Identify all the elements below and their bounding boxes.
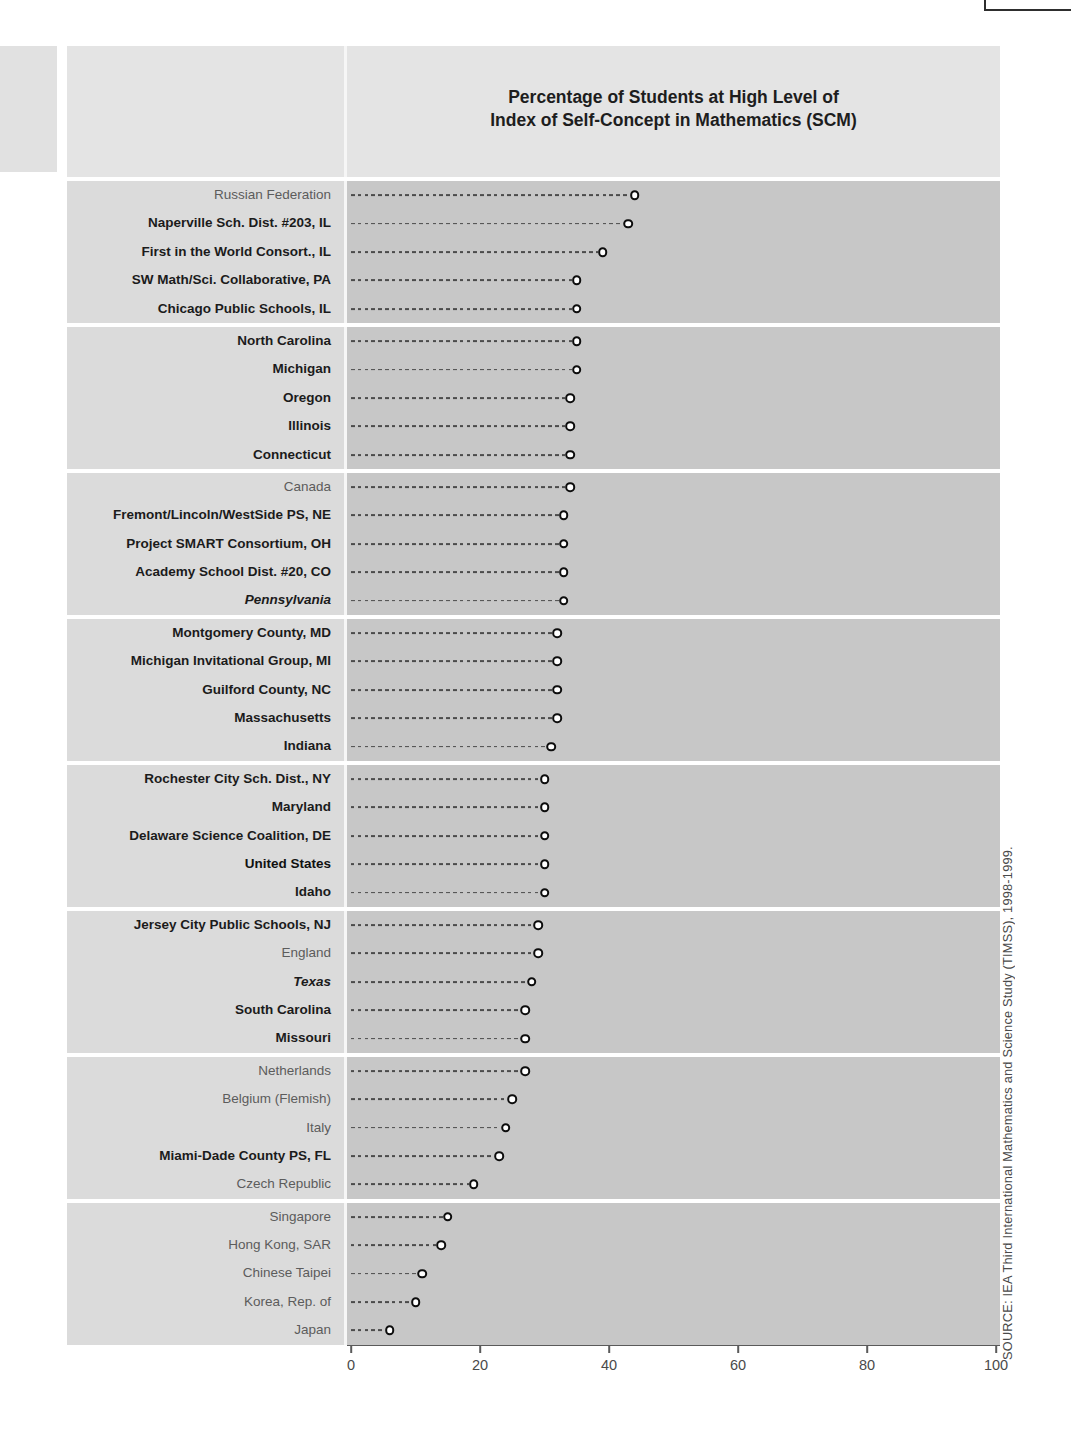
data-point-marker <box>572 365 582 375</box>
row-label: Miami-Dade County PS, FL <box>67 1142 344 1170</box>
row-plot <box>347 765 1000 793</box>
row-label: Chicago Public Schools, IL <box>67 295 344 323</box>
axis-tick <box>479 1346 481 1353</box>
row-plot <box>347 878 1000 906</box>
group-label-column: Rochester City Sch. Dist., NYMarylandDel… <box>67 765 344 907</box>
row-plot <box>347 822 1000 850</box>
title-band-left <box>67 46 344 177</box>
row-label: Michigan <box>67 355 344 383</box>
group-plot-column <box>347 765 1000 907</box>
row-label: Pennsylvania <box>67 586 344 614</box>
row-label: Maryland <box>67 793 344 821</box>
data-point-marker <box>520 1034 530 1044</box>
data-point-marker <box>540 859 550 869</box>
row-label: United States <box>67 850 344 878</box>
row-plot <box>347 266 1000 294</box>
data-point-marker <box>546 742 556 752</box>
leader-dash-line <box>351 1098 507 1100</box>
row-plot <box>347 209 1000 237</box>
decorative-block <box>0 46 57 172</box>
data-point-marker <box>559 539 569 549</box>
group-label-column: Jersey City Public Schools, NJEnglandTex… <box>67 911 344 1053</box>
group-label-column: SingaporeHong Kong, SARChinese TaipeiKor… <box>67 1203 344 1345</box>
leader-dash-line <box>351 778 540 780</box>
row-plot <box>347 1057 1000 1085</box>
group-plot-column <box>347 1057 1000 1199</box>
row-label: Hong Kong, SAR <box>67 1231 344 1259</box>
leader-dash-line <box>351 340 572 342</box>
leader-dash-line <box>351 223 623 225</box>
row-plot <box>347 1259 1000 1287</box>
chart-groups: Russian FederationNaperville Sch. Dist. … <box>67 181 1000 1345</box>
data-point-marker <box>553 713 563 723</box>
axis-tick <box>350 1346 352 1353</box>
data-point-marker <box>553 657 563 667</box>
leader-dash-line <box>351 1244 436 1246</box>
data-point-marker <box>411 1297 421 1307</box>
scm-dot-plot-chart: Percentage of Students at High Level of … <box>67 46 1000 1386</box>
page-corner-box <box>984 0 1071 11</box>
leader-dash-line <box>351 1184 469 1186</box>
row-label: Oregon <box>67 384 344 412</box>
row-label: Chinese Taipei <box>67 1259 344 1287</box>
row-label: Belgium (Flemish) <box>67 1085 344 1113</box>
data-point-marker <box>540 803 550 813</box>
group-label-column: Montgomery County, MDMichigan Invitation… <box>67 619 344 761</box>
row-plot <box>347 1316 1000 1344</box>
row-plot <box>347 676 1000 704</box>
row-label: Michigan Invitational Group, MI <box>67 647 344 675</box>
leader-dash-line <box>351 952 533 954</box>
row-label: Academy School Dist. #20, CO <box>67 558 344 586</box>
row-label: Italy <box>67 1114 344 1142</box>
x-axis-row: 020406080100 <box>67 1345 1000 1386</box>
leader-dash-line <box>351 1301 411 1303</box>
leader-dash-line <box>351 717 552 719</box>
data-point-marker <box>501 1123 511 1133</box>
data-point-marker <box>553 628 563 638</box>
chart-title-band: Percentage of Students at High Level of … <box>67 46 1000 177</box>
data-point-marker <box>385 1326 395 1336</box>
row-label: Delaware Science Coalition, DE <box>67 822 344 850</box>
leader-dash-line <box>351 369 572 371</box>
axis-tick-label: 20 <box>472 1357 488 1373</box>
axis-tick-label: 40 <box>601 1357 617 1373</box>
row-plot <box>347 1114 1000 1142</box>
row-plot <box>347 586 1000 614</box>
leader-dash-line <box>351 1330 385 1332</box>
chart-group: SingaporeHong Kong, SARChinese TaipeiKor… <box>67 1203 1000 1345</box>
row-plot <box>347 1231 1000 1259</box>
data-point-marker <box>572 276 582 286</box>
group-plot-column <box>347 911 1000 1053</box>
data-point-marker <box>443 1212 453 1222</box>
row-label: Guilford County, NC <box>67 676 344 704</box>
data-point-marker <box>559 511 569 521</box>
data-point-marker <box>598 247 608 257</box>
row-plot <box>347 732 1000 760</box>
chart-title-line-1: Percentage of Students at High Level of <box>347 86 1000 109</box>
row-label: Naperville Sch. Dist. #203, IL <box>67 209 344 237</box>
row-label: First in the World Consort., IL <box>67 238 344 266</box>
row-plot <box>347 704 1000 732</box>
data-point-marker <box>559 567 569 577</box>
row-plot <box>347 1203 1000 1231</box>
row-plot <box>347 501 1000 529</box>
row-plot <box>347 412 1000 440</box>
data-point-marker <box>520 1066 530 1076</box>
leader-dash-line <box>351 279 572 281</box>
data-point-marker <box>624 219 634 229</box>
row-label: Netherlands <box>67 1057 344 1085</box>
leader-dash-line <box>351 486 565 488</box>
row-label: England <box>67 939 344 967</box>
leader-dash-line <box>351 600 559 602</box>
data-point-marker <box>495 1151 505 1161</box>
data-point-marker <box>417 1269 427 1279</box>
axis-tick <box>866 1346 868 1353</box>
data-point-marker <box>566 450 576 460</box>
row-plot <box>347 238 1000 266</box>
row-plot <box>347 647 1000 675</box>
leader-dash-line <box>351 308 572 310</box>
leader-dash-line <box>351 835 540 837</box>
data-point-marker <box>540 831 550 841</box>
data-point-marker <box>566 482 576 492</box>
